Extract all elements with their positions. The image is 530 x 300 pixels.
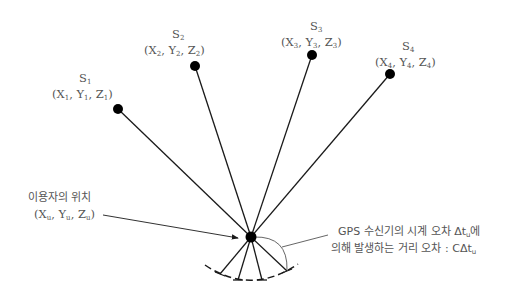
error-leader-line xyxy=(282,235,328,247)
dashed-error-arc xyxy=(205,264,298,280)
satellite-s2-dot xyxy=(190,61,200,71)
line-s1-user xyxy=(118,109,251,237)
svg-text:S2: S2 xyxy=(172,27,184,42)
svg-text:(Xu, Yu, Zu): (Xu, Yu, Zu) xyxy=(34,207,95,222)
line-s3-user xyxy=(251,55,312,237)
satellite-s2-label: S2 (X2, Y2, Z2) xyxy=(144,27,205,58)
svg-text:(X4, Y4, Z4): (X4, Y4, Z4) xyxy=(375,55,436,70)
satellite-s1-dot xyxy=(113,104,123,114)
svg-text:S4: S4 xyxy=(402,39,415,54)
clock-error-arc xyxy=(254,237,287,270)
line-s2-user xyxy=(195,66,251,237)
svg-text:GPS 수신기의 시계 오차 Δtu에: GPS 수신기의 시계 오차 Δtu에 xyxy=(338,225,480,239)
gps-positioning-diagram: S1 (X1, Y1, Z1) S2 (X2, Y2, Z2) S3 (X3, … xyxy=(0,0,530,300)
satellite-s4-dot xyxy=(385,69,395,79)
ext-line-2 xyxy=(238,237,251,280)
svg-text:S1: S1 xyxy=(79,71,91,86)
satellite-s1-label: S1 (X1, Y1, Z1) xyxy=(52,71,113,102)
user-position-dot xyxy=(246,232,257,243)
svg-text:(X3, Y3, Z3): (X3, Y3, Z3) xyxy=(281,35,342,50)
satellite-dots xyxy=(113,50,395,243)
satellite-s3-label: S3 (X3, Y3, Z3) xyxy=(281,19,342,50)
ext-line-1 xyxy=(220,237,251,274)
diagram-svg: S1 (X1, Y1, Z1) S2 (X2, Y2, Z2) S3 (X3, … xyxy=(0,0,530,300)
line-s4-user xyxy=(251,74,390,237)
clock-error-annotation: GPS 수신기의 시계 오차 Δtu에 의해 발생하는 거리 오차 : CΔtu xyxy=(331,225,480,256)
user-arrow xyxy=(103,215,238,238)
svg-text:(X1, Y1, Z1): (X1, Y1, Z1) xyxy=(52,87,113,102)
satellite-s3-dot xyxy=(307,50,317,60)
user-position-label: 이용자의 위치 (Xu, Yu, Zu) xyxy=(28,191,95,222)
ext-line-3 xyxy=(251,237,262,280)
svg-text:S3: S3 xyxy=(310,19,322,34)
ext-line-4 xyxy=(251,237,287,271)
pseudorange-lines xyxy=(118,55,390,237)
svg-text:의해 발생하는 거리 오차 : CΔtu: 의해 발생하는 거리 오차 : CΔtu xyxy=(331,241,476,256)
svg-text:(X2, Y2, Z2): (X2, Y2, Z2) xyxy=(144,43,205,58)
svg-text:이용자의 위치: 이용자의 위치 xyxy=(28,191,92,204)
satellite-s4-label: S4 (X4, Y4, Z4) xyxy=(375,39,436,70)
